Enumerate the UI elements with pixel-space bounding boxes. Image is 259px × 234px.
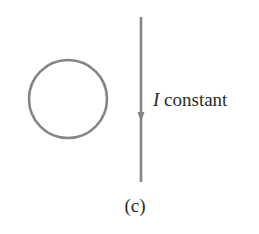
current-description: constant [159,89,228,110]
current-label: I constant [152,89,228,110]
current-direction-arrow-icon [138,112,145,122]
diagram-canvas: I constant (c) [0,0,259,234]
wire-loop [29,60,107,138]
figure-caption: (c) [124,195,145,217]
